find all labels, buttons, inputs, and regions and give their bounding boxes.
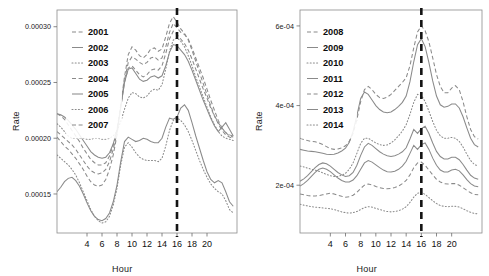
right-panel-plot: 2e-044e-046e-044681012141618202008200920…	[245, 0, 489, 276]
legend: 2008200920102011201220132014	[301, 26, 357, 139]
x-tick-label: 14	[157, 239, 167, 249]
legend: 2001200220032004200520062007	[66, 26, 122, 139]
series-line-2013	[300, 143, 478, 187]
right-y-axis-title: Rate	[254, 111, 264, 131]
legend-label-2013: 2013	[323, 105, 343, 115]
y-tick-label: 0.00020	[25, 134, 51, 143]
legend-label-2009: 2009	[323, 43, 343, 53]
right-panel: 2e-044e-046e-044681012141618202008200920…	[245, 0, 489, 276]
x-tick-label: 16	[416, 239, 426, 249]
legend-label-2002: 2002	[88, 43, 108, 53]
series-line-2014	[300, 192, 478, 214]
x-tick-label: 4	[84, 239, 89, 249]
legend-label-2010: 2010	[323, 58, 343, 68]
x-tick-label: 6	[99, 239, 104, 249]
x-tick-label: 20	[202, 239, 212, 249]
legend-label-2012: 2012	[323, 89, 343, 99]
x-tick-label: 14	[401, 239, 411, 249]
right-x-axis-title: Hour	[245, 264, 489, 274]
left-panel-plot: 0.000150.000200.000250.00030468101214161…	[0, 0, 245, 276]
x-tick-label: 8	[114, 239, 119, 249]
x-tick-label: 6	[342, 239, 347, 249]
x-tick-label: 20	[446, 239, 456, 249]
x-tick-label: 16	[172, 239, 182, 249]
y-tick-label: 4e-04	[275, 101, 293, 110]
x-tick-label: 10	[127, 239, 137, 249]
legend-label-2005: 2005	[88, 89, 108, 99]
two-panel-line-chart-figure: 0.000150.000200.000250.00030468101214161…	[0, 0, 489, 276]
y-tick-label: 0.00015	[25, 190, 51, 199]
legend-label-2003: 2003	[88, 58, 108, 68]
left-panel: 0.000150.000200.000250.00030468101214161…	[0, 0, 245, 276]
x-tick-label: 4	[327, 239, 332, 249]
legend-label-2006: 2006	[88, 105, 108, 115]
legend-label-2001: 2001	[88, 27, 108, 37]
x-tick-label: 10	[370, 239, 380, 249]
y-tick-label: 2e-04	[275, 181, 293, 190]
legend-label-2011: 2011	[323, 74, 343, 84]
x-tick-label: 8	[358, 239, 363, 249]
x-tick-label: 18	[187, 239, 197, 249]
x-tick-label: 18	[431, 239, 441, 249]
left-x-axis-title: Hour	[0, 264, 245, 274]
y-tick-label: 0.00025	[25, 78, 51, 87]
x-tick-label: 12	[385, 239, 395, 249]
y-tick-label: 6e-04	[275, 22, 293, 31]
legend-label-2014: 2014	[323, 120, 344, 130]
x-tick-label: 12	[142, 239, 152, 249]
legend-label-2007: 2007	[88, 120, 108, 130]
series-line-2012	[300, 162, 478, 197]
legend-label-2004: 2004	[88, 74, 109, 84]
left-y-axis-title: Rate	[11, 111, 21, 131]
y-tick-label: 0.00030	[25, 22, 51, 31]
legend-label-2008: 2008	[323, 27, 343, 37]
